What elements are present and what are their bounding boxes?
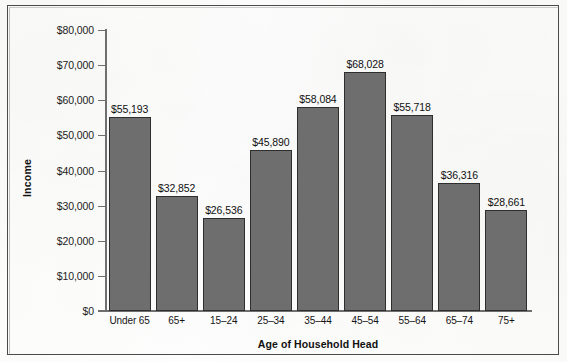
bar-value-label: $55,193 — [100, 103, 160, 115]
y-axis-tick — [98, 30, 106, 31]
y-axis-tick-label: $80,000 — [8, 24, 94, 36]
bar — [438, 183, 480, 311]
bar — [156, 196, 198, 311]
y-axis-tick-label: $0 — [8, 305, 94, 317]
y-axis-tick — [98, 100, 106, 101]
bar-value-label: $26,536 — [194, 204, 254, 216]
y-axis-tick-label-wrap: $80,000 — [8, 24, 94, 36]
y-axis-tick — [98, 241, 106, 242]
y-axis-tick-label: $60,000 — [8, 94, 94, 106]
bar — [391, 115, 433, 311]
bar — [485, 210, 527, 311]
bar — [297, 107, 339, 311]
bar — [203, 218, 245, 311]
y-axis-tick-label-wrap: $20,000 — [8, 235, 94, 247]
y-axis-tick — [98, 206, 106, 207]
y-axis-tick-label: $50,000 — [8, 129, 94, 141]
x-axis-title: Age of Household Head — [106, 338, 530, 350]
y-axis-tick-label: $20,000 — [8, 235, 94, 247]
bar-value-label: $68,028 — [335, 58, 395, 70]
bar-value-label: $45,890 — [241, 136, 301, 148]
chart-screenshot: $0$10,000$20,000$30,000$40,000$50,000$60… — [0, 0, 567, 362]
bar-value-label: $36,316 — [429, 169, 489, 181]
bar — [344, 72, 386, 311]
bar-value-label: $32,852 — [147, 182, 207, 194]
plot-area: $55,193$32,852$26,536$45,890$58,084$68,0… — [106, 30, 530, 311]
bar — [250, 150, 292, 311]
y-axis-tick-label: $70,000 — [8, 59, 94, 71]
y-axis-tick-label: $10,000 — [8, 270, 94, 282]
bar-value-label: $28,661 — [476, 196, 536, 208]
y-axis-tick-label-wrap: $0 — [8, 305, 94, 317]
y-axis-tick — [98, 276, 106, 277]
x-axis-category-label: 75+ — [474, 315, 538, 326]
y-axis-tick-label-wrap: $10,000 — [8, 270, 94, 282]
y-axis-tick — [98, 65, 106, 66]
y-axis-tick — [98, 311, 106, 312]
bar — [109, 117, 151, 311]
y-axis-tick-label-wrap: $50,000 — [8, 129, 94, 141]
y-axis-tick — [98, 171, 106, 172]
y-axis-title: Income — [21, 148, 35, 208]
y-axis-tick-label-wrap: $60,000 — [8, 94, 94, 106]
y-axis-tick-label-wrap: $70,000 — [8, 59, 94, 71]
bar-value-label: $55,718 — [382, 101, 442, 113]
y-axis-tick — [98, 135, 106, 136]
bar-value-label: $58,084 — [288, 93, 348, 105]
